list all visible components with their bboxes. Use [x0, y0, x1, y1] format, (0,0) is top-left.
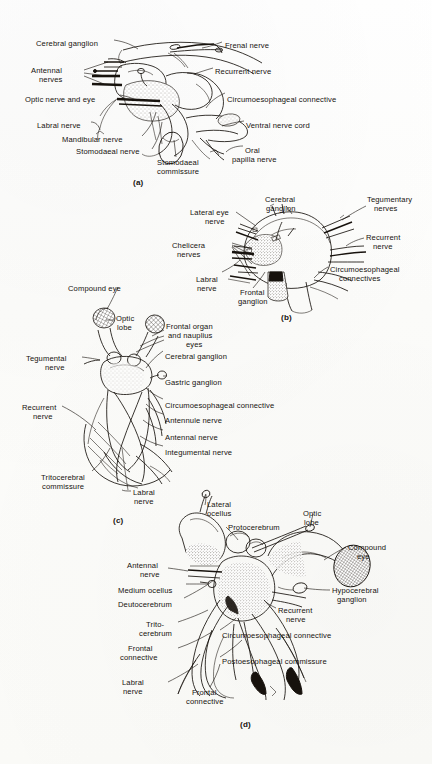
label-b-tegumentary: Tegumentary — [367, 195, 412, 204]
label-a-ventral-nerve-cord: Ventral nerve cord — [246, 121, 310, 130]
label-a-oral: Oral — [245, 146, 260, 155]
label-a-antennal: Antennal — [31, 66, 62, 75]
label-b-connectives: connectives — [339, 274, 380, 283]
label-d-connective: connective — [186, 697, 224, 706]
label-b-nerve: nerve — [197, 284, 217, 293]
label-a-optic-nerve-and-eye: Optic nerve and eye — [25, 95, 95, 104]
label-c-compound-eye: Compound eye — [68, 284, 121, 293]
label-a-recurrent-nerve: Recurrent nerve — [215, 67, 271, 76]
label-a-frenal-nerve: Frenal nerve — [225, 41, 269, 50]
label-d-deutocerebrum: Deutocerebrum — [118, 600, 172, 609]
label-d-circumoesophageal-connective: Circumoesophageal connective — [222, 631, 331, 640]
label-d-protocerebrum: Protocerebrum — [228, 523, 280, 532]
label-d-frontal: Frontal — [128, 644, 152, 653]
label-b-recurrent: Recurrent — [366, 233, 400, 242]
label-c-antennule-nerve: Antennule nerve — [165, 416, 222, 425]
label-c-antennal-nerve: Antennal nerve — [165, 433, 218, 442]
label-a-nerves: nerves — [39, 75, 63, 84]
label-d-recurrent: Recurrent — [278, 606, 312, 615]
label-c-circumoesophageal-connective: Circumoesophageal connective — [165, 401, 274, 410]
label-d-nerve: nerve — [286, 615, 306, 624]
label-b-nerves: nerves — [177, 250, 201, 259]
label-c-eyes: eyes — [186, 340, 203, 349]
label-a-mandibular-nerve: Mandibular nerve — [62, 135, 123, 144]
label-b-nerve: nerve — [373, 242, 393, 251]
label-b-frontal: Frontal — [240, 288, 264, 297]
panel-letter-b: (b) — [281, 313, 292, 322]
label-d-nerve: nerve — [140, 570, 160, 579]
label-c-gastric-ganglion: Gastric ganglion — [165, 378, 222, 387]
label-c-and-nauplius: and nauplius — [168, 331, 213, 340]
panel-letter-c: (c) — [113, 516, 124, 525]
label-a-papilla-nerve: papilla nerve — [232, 155, 277, 164]
label-c-labral: Labral — [133, 488, 155, 497]
label-c-nerve: nerve — [134, 497, 154, 506]
label-d-ganglion: ganglion — [337, 595, 367, 604]
label-d-eye: eye — [357, 552, 370, 561]
panel-c-drawing — [84, 308, 172, 490]
label-d-ocellus: ocellus — [207, 509, 231, 518]
label-b-labral: Labral — [196, 275, 218, 284]
label-d-nerve: nerve — [123, 687, 143, 696]
label-d-optic: Optic — [303, 509, 321, 518]
label-a-labral-nerve: Labral nerve — [37, 121, 81, 130]
label-d-hypocerebral: Hypocerebral — [332, 586, 379, 595]
label-c-nerve: nerve — [33, 412, 53, 421]
label-a-commissure: commissure — [157, 167, 199, 176]
label-d-lobe: lobe — [304, 518, 319, 527]
label-c-frontal-organ: Frontal organ — [166, 322, 213, 331]
label-c-lobe: lobe — [117, 323, 132, 332]
label-b-nerves: nerves — [374, 204, 398, 213]
figure-plate: Cerebral ganglionFrenal nerveAntennalner… — [0, 0, 432, 764]
label-c-integumental-nerve: Integumental nerve — [165, 448, 232, 457]
label-d-trito: Trito- — [146, 620, 164, 629]
label-c-tegumental: Tegumental — [26, 354, 66, 363]
label-b-nerve: nerve — [205, 217, 225, 226]
label-c-optic: Optic — [116, 314, 134, 323]
label-b-lateral-eye: Lateral eye — [190, 208, 229, 217]
label-b-ganglion: ganglion — [266, 204, 296, 213]
label-b-cerebral: Cerebral — [265, 195, 295, 204]
label-a-cerebral-ganglion: Cerebral ganglion — [36, 39, 98, 48]
label-a-stomodaeal-nerve: Stomodaeal nerve — [76, 147, 140, 156]
label-b-chelicera: Chelicera — [172, 241, 205, 250]
label-d-cerebrum: cerebrum — [139, 629, 172, 638]
label-d-compound: Compound — [348, 543, 386, 552]
label-d-connective: connective — [120, 653, 158, 662]
label-c-commissure: commissure — [42, 482, 84, 491]
label-d-frontal: Frontal — [192, 688, 216, 697]
label-a-stomodaeal: Stomodaeal — [157, 158, 199, 167]
panel-letter-a: (a) — [133, 178, 144, 187]
label-d-postoesophageal-commissure: Postoesophageal commissure — [222, 657, 327, 666]
label-c-recurrent: Recurrent — [22, 403, 56, 412]
label-c-nerve: nerve — [45, 363, 65, 372]
label-d-labral: Labral — [122, 678, 144, 687]
label-d-lateral: Lateral — [207, 500, 231, 509]
label-d-medium-ocellus: Medium ocellus — [118, 586, 172, 595]
label-c-tritocerebral: Tritocerebral — [41, 473, 85, 482]
label-a-circumoesophageal-connective: Circumoesophageal connective — [227, 95, 336, 104]
label-b-ganglion: ganglion — [238, 297, 268, 306]
label-c-cerebral-ganglion: Cerebral ganglion — [165, 352, 227, 361]
label-d-antennal: Antennal — [127, 561, 158, 570]
panel-letter-d: (d) — [240, 720, 251, 729]
label-b-circumoesophageal: Circumoesophageal — [330, 265, 400, 274]
